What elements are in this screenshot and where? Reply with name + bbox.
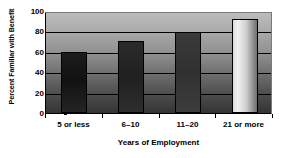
- bar: [232, 19, 258, 113]
- plot-border-top: [45, 12, 272, 13]
- x-tick-label: 5 or less: [45, 120, 102, 129]
- x-tick-mark: [45, 114, 46, 118]
- y-tick-label: 80: [20, 28, 44, 36]
- x-tick-mark: [159, 114, 160, 118]
- bar-chart: Percent Familiar with Benefit 0204060801…: [0, 0, 284, 158]
- y-tick-label: 0: [20, 110, 44, 118]
- x-tick-mark: [272, 114, 273, 118]
- y-axis-title: Percent Familiar with Benefit: [7, 2, 16, 112]
- x-axis-title: Years of Employment: [45, 138, 272, 147]
- x-tick-label: 21 or more: [215, 120, 272, 129]
- x-tick-mark: [102, 114, 103, 118]
- x-tick-label: 11–20: [159, 120, 216, 129]
- y-tick-label: 100: [20, 8, 44, 16]
- bar: [118, 41, 144, 113]
- plot-area: [45, 12, 272, 114]
- y-tick-label: 60: [20, 49, 44, 57]
- bar: [61, 52, 87, 113]
- x-tick-label: 6–10: [102, 120, 159, 129]
- bar: [175, 32, 201, 113]
- y-tick-label: 40: [20, 69, 44, 77]
- y-tick-label: 20: [20, 90, 44, 98]
- x-tick-mark: [215, 114, 216, 118]
- plot-border-right: [271, 12, 272, 114]
- x-axis-tick-marks: [45, 114, 272, 119]
- y-axis-tick-labels: 020406080100: [20, 12, 44, 114]
- x-axis-tick-labels: 5 or less6–1011–2021 or more: [45, 120, 272, 132]
